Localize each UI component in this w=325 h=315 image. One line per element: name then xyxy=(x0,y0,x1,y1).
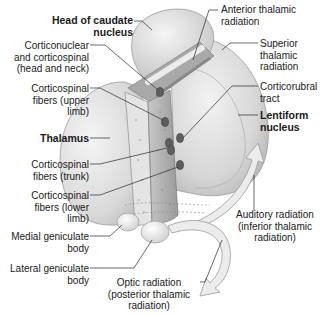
corticonuclear-bundle xyxy=(157,88,164,97)
leader-lateral-geniculate xyxy=(90,240,152,268)
label-thalamus: Thalamus xyxy=(40,133,89,145)
label-optic-radiation: Optic radiation (posterior thalamic radi… xyxy=(100,277,198,312)
label-corticospinal-trunk: Corticospinal fibers (trunk) xyxy=(31,159,89,182)
label-auditory-radiation: Auditory radiation (inferior thalamic ra… xyxy=(225,209,325,244)
corticorubral-bundle xyxy=(177,134,184,143)
corticospinal-upper-bundle xyxy=(162,118,169,127)
label-head-of-caudate: Head of caudate nucleus xyxy=(52,15,133,38)
label-lentiform: Lentiform nucleus xyxy=(260,110,308,133)
corticospinal-lower-bundle xyxy=(177,161,184,170)
label-anterior-thalamic: Anterior thalamic radiation xyxy=(221,4,296,27)
label-corticorubral: Corticorubral tract xyxy=(260,81,317,104)
corticospinal-trunk-bundle-2 xyxy=(168,146,175,155)
label-corticospinal-lower: Corticospinal fibers (lower limb) xyxy=(31,190,89,225)
lateral-geniculate-body xyxy=(141,221,169,243)
label-corticonuclear: Corticonuclear and corticospinal (head a… xyxy=(14,40,89,75)
medial-geniculate-body xyxy=(117,213,139,231)
label-superior-thalamic: Superior thalamic radiation xyxy=(260,38,298,73)
label-medial-geniculate: Medial geniculate body xyxy=(11,231,89,254)
label-corticospinal-upper: Corticospinal fibers (upper limb) xyxy=(31,83,89,118)
leader-medial-geniculate xyxy=(90,225,122,236)
label-lateral-geniculate: Lateral geniculate body xyxy=(10,263,89,286)
